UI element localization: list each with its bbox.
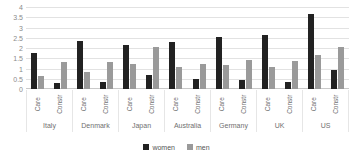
sector-bar-pair [118,7,141,89]
sector-bar-pair [280,7,303,89]
sector-label-group: CareConstr [211,90,257,118]
sector-label-cell: Care [119,90,142,118]
country-label-row: ItalyDenmarkJapanAustraliaGermanyUKUS [26,118,349,132]
y-axis-tick-label: 3 [19,24,23,31]
country-label-cell: Japan [119,118,165,132]
sector-label-group: CareConstr [119,90,165,118]
sector-bar-pair [326,7,349,89]
legend-item[interactable]: women [143,144,175,151]
country-label: UK [275,122,285,129]
bar-men [107,62,113,89]
bar-women [193,79,199,89]
sector-label-cell: Constr [280,90,303,118]
chart-legend: womenmen [0,140,353,154]
sector-bar-pair [303,7,326,89]
bar-women [100,82,106,89]
bar-women [54,83,60,89]
country-group [303,7,349,89]
bar-women [331,70,337,89]
country-group [164,7,210,89]
sector-label-cell: Care [257,90,280,118]
bar-men [38,76,44,89]
sector-label: Care [265,97,272,111]
country-label: Italy [43,122,56,129]
bar-women [31,53,37,89]
sector-bar-pair [26,7,49,89]
sector-label: Constr [334,94,341,113]
sector-label-cell: Care [27,90,50,118]
sector-label: Care [173,97,180,111]
bar-men [61,62,67,89]
sector-label: Constr [196,94,203,113]
sector-bar-pair [234,7,257,89]
y-axis-tick-label: 1.5 [13,55,23,62]
legend-label: women [152,144,175,151]
sector-bar-pair [49,7,72,89]
bar-chart: 43.532.521.510.50 CareConstrCareConstrCa… [0,0,353,164]
y-axis-tick-label: 1 [19,65,23,72]
sector-label: Care [219,97,226,111]
sector-label-cell: Constr [234,90,257,118]
country-label-cell: Germany [211,118,257,132]
sector-bar-pair [95,7,118,89]
country-label: Denmark [81,122,109,129]
sector-label: Constr [242,94,249,113]
y-axis-tick-label: 4 [19,4,23,11]
bar-women [262,35,268,89]
country-label-cell: Italy [26,118,73,132]
sector-label-group: CareConstr [26,90,73,118]
legend-swatch-icon [187,144,193,150]
bar-women [146,75,152,89]
sector-label-cell: Constr [96,90,119,118]
sector-label-group: CareConstr [257,90,303,118]
country-label-cell: Denmark [73,118,119,132]
country-label: Germany [219,122,248,129]
y-axis-tick-label: 3.5 [13,14,23,21]
country-label-cell: Australia [165,118,211,132]
sector-label-group: CareConstr [303,90,349,118]
sector-label-cell: Care [211,90,234,118]
sector-label-group: CareConstr [165,90,211,118]
sector-label: Care [35,97,42,111]
country-label-cell: US [303,118,349,132]
sector-label-group: CareConstr [73,90,119,118]
sector-label-cell: Care [165,90,188,118]
bars-layer [26,7,349,89]
country-label: Japan [132,122,151,129]
bar-men [176,67,182,89]
sector-bar-pair [72,7,95,89]
sector-label-row: CareConstrCareConstrCareConstrCareConstr… [26,90,349,118]
sector-bar-pair [257,7,280,89]
y-axis-tick-label: 0.5 [13,75,23,82]
country-group [72,7,118,89]
y-axis: 43.532.521.510.50 [0,0,26,96]
bar-women [77,41,83,89]
sector-label: Care [127,97,134,111]
sector-label: Constr [104,94,111,113]
country-label-cell: UK [257,118,303,132]
bar-men [338,47,344,89]
sector-label-cell: Constr [188,90,211,118]
country-group [26,7,72,89]
bar-women [308,14,314,89]
sector-label: Constr [58,94,65,113]
sector-bar-pair [164,7,187,89]
country-group [118,7,164,89]
sector-label-cell: Constr [142,90,165,118]
country-group [257,7,303,89]
sector-bar-pair [211,7,234,89]
legend-item[interactable]: men [187,144,210,151]
bar-men [130,64,136,89]
sector-label-cell: Care [73,90,96,118]
bar-men [246,60,252,89]
legend-label: men [196,144,210,151]
bar-women [239,80,245,89]
bar-men [315,55,321,89]
sector-label-cell: Care [303,90,326,118]
sector-label-cell: Constr [50,90,73,118]
sector-label: Constr [150,94,157,113]
y-axis-tick-label: 0 [19,86,23,93]
legend-swatch-icon [143,144,149,150]
sector-label: Care [311,97,318,111]
bar-women [216,37,222,89]
